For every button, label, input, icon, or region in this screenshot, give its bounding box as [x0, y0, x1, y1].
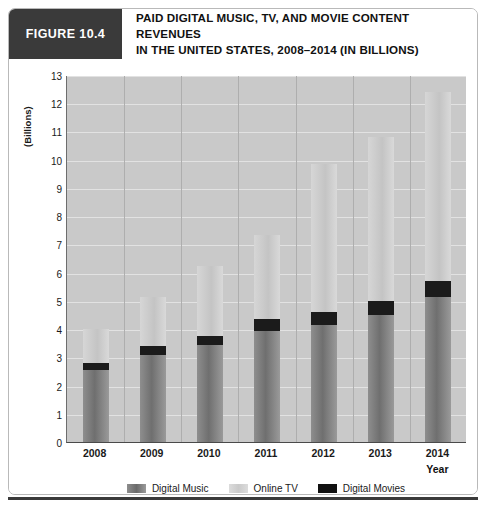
x-tick-label: 2008 [83, 447, 106, 459]
category-divider [296, 76, 297, 442]
plot-area [66, 76, 466, 443]
y-tick-label: 8 [14, 212, 62, 223]
bar-segment-music [311, 325, 337, 442]
bar-segment-music [197, 345, 223, 442]
y-tick-label: 0 [14, 438, 62, 449]
chart-legend: Digital MusicOnline TVDigital Movies [66, 483, 466, 494]
legend-item[interactable]: Digital Movies [318, 483, 405, 494]
figure-page: FIGURE 10.4 PAID DIGITAL MUSIC, TV, AND … [0, 0, 486, 510]
x-tick-label: 2011 [255, 447, 278, 459]
category-divider [181, 76, 182, 442]
legend-item[interactable]: Digital Music [127, 483, 209, 494]
gridline [67, 76, 466, 77]
bar-segment-music [140, 355, 166, 443]
footer-rule [8, 497, 478, 500]
y-tick-label: 12 [14, 99, 62, 110]
plot-inner [67, 76, 466, 442]
y-tick-label: 3 [14, 353, 62, 364]
y-tick-label: 9 [14, 183, 62, 194]
figure-header: FIGURE 10.4 PAID DIGITAL MUSIC, TV, AND … [9, 9, 478, 59]
figure-title-line-2: IN THE UNITED STATES, 2008–2014 (IN BILL… [136, 42, 471, 58]
y-tick-label: 5 [14, 296, 62, 307]
bar-segment-tv [425, 92, 451, 281]
bar-group[interactable] [311, 164, 337, 442]
bar-segment-tv [254, 235, 280, 320]
bar-segment-music [254, 331, 280, 443]
gridline [67, 104, 466, 105]
figure-number-tag: FIGURE 10.4 [9, 9, 122, 59]
category-divider [238, 76, 239, 442]
x-tick-label: 2013 [369, 447, 392, 459]
bar-group[interactable] [425, 92, 451, 442]
y-tick-label: 6 [14, 268, 62, 279]
y-tick-label: 1 [14, 409, 62, 420]
legend-label: Digital Music [152, 483, 209, 494]
bar-group[interactable] [83, 329, 109, 442]
legend-label: Digital Movies [343, 483, 405, 494]
x-axis-label: Year [426, 463, 448, 475]
legend-swatch-movies [318, 484, 337, 493]
legend-swatch-tv [229, 484, 248, 493]
category-divider [124, 76, 125, 442]
category-divider [353, 76, 354, 442]
bar-segment-movies [254, 319, 280, 330]
bar-segment-music [425, 297, 451, 442]
x-tick-label: 2009 [140, 447, 163, 459]
bar-segment-music [83, 370, 109, 442]
bar-segment-movies [83, 363, 109, 370]
figure-title: PAID DIGITAL MUSIC, TV, AND MOVIE CONTEN… [122, 9, 478, 59]
y-axis-ticks: 131211109876543210 [9, 76, 62, 443]
bar-segment-movies [311, 312, 337, 325]
figure-frame: FIGURE 10.4 PAID DIGITAL MUSIC, TV, AND … [8, 8, 478, 495]
y-tick-label: 7 [14, 240, 62, 251]
legend-swatch-music [127, 484, 146, 493]
gridline [67, 217, 466, 218]
bar-segment-music [368, 315, 394, 442]
y-tick-label: 10 [14, 155, 62, 166]
gridline [67, 132, 466, 133]
bar-segment-tv [311, 164, 337, 312]
x-tick-label: 2010 [197, 447, 220, 459]
legend-label: Online TV [254, 483, 298, 494]
bar-segment-movies [425, 281, 451, 297]
chart-body: (Billions) 131211109876543210 2008200920… [9, 59, 478, 495]
y-tick-label: 11 [14, 127, 62, 138]
y-tick-label: 2 [14, 381, 62, 392]
x-tick-label: 2014 [426, 447, 449, 459]
bar-group[interactable] [140, 297, 166, 442]
bar-segment-tv [140, 297, 166, 346]
x-tick-label: 2012 [311, 447, 334, 459]
bar-segment-tv [83, 329, 109, 363]
bar-segment-movies [368, 301, 394, 315]
bar-segment-movies [140, 346, 166, 354]
figure-title-line-1: PAID DIGITAL MUSIC, TV, AND MOVIE CONTEN… [136, 10, 471, 42]
bar-segment-tv [197, 266, 223, 337]
bar-group[interactable] [197, 266, 223, 442]
category-divider [410, 76, 411, 442]
bar-segment-tv [368, 137, 394, 301]
gridline [67, 189, 466, 190]
gridline [67, 161, 466, 162]
bar-segment-movies [197, 336, 223, 344]
legend-item[interactable]: Online TV [229, 483, 298, 494]
bar-group[interactable] [254, 235, 280, 442]
bar-group[interactable] [368, 137, 394, 442]
y-tick-label: 13 [14, 71, 62, 82]
y-tick-label: 4 [14, 325, 62, 336]
x-axis-ticks: 2008200920102011201220132014 [66, 447, 466, 465]
